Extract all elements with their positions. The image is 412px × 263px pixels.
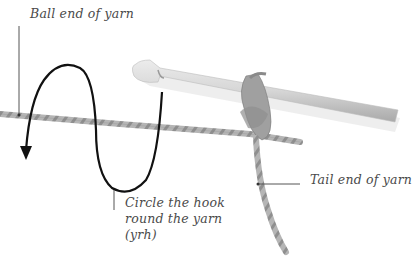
- crochet-diagram: Ball end of yarn Circle the hook round t…: [0, 0, 412, 263]
- circle-hook-label-line-3: (yrh): [125, 227, 225, 243]
- circle-hook-label: Circle the hook round the yarn (yrh): [125, 195, 225, 243]
- circle-hook-label-line-2: round the yarn: [125, 211, 225, 227]
- slip-knot: [240, 74, 271, 141]
- ball-end-label: Ball end of yarn: [30, 6, 134, 22]
- circle-hook-label-line-1: Circle the hook: [125, 195, 225, 211]
- yarn-tail-end: [256, 138, 286, 252]
- tail-end-label: Tail end of yarn: [310, 172, 412, 188]
